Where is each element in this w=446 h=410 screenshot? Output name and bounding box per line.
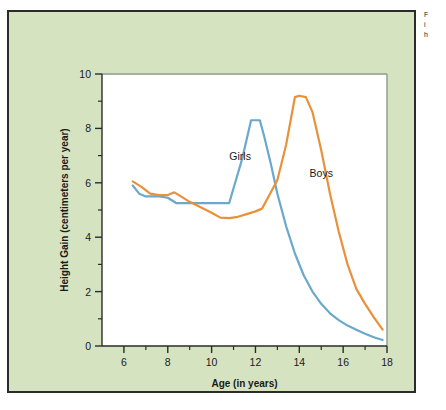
y-tick-label: 6	[85, 177, 91, 189]
series-label-boys: Boys	[310, 167, 333, 179]
figure-panel: 0246810681012141618Age (in years)Height …	[7, 10, 416, 393]
x-tick-label: 12	[250, 356, 262, 368]
y-axis-title: Height Gain (centimeters per year)	[59, 128, 70, 291]
y-tick-label: 10	[79, 68, 91, 80]
x-axis: 681012141618	[102, 346, 393, 368]
x-tick-label: 10	[206, 356, 218, 368]
y-tick-label: 8	[85, 122, 91, 134]
x-tick-label: 14	[293, 356, 305, 368]
plot-area: 0246810681012141618Age (in years)Height …	[9, 12, 418, 395]
plot-background	[102, 74, 387, 346]
growth-rate-line-chart: 0246810681012141618Age (in years)Height …	[9, 12, 418, 395]
x-tick-label: 8	[165, 356, 171, 368]
y-axis: 0246810	[79, 68, 102, 352]
y-tick-label: 2	[85, 286, 91, 298]
caption-strip: F i h	[424, 10, 446, 70]
x-axis-title: Age (in years)	[211, 378, 277, 389]
x-tick-label: 6	[121, 356, 127, 368]
caption-line-2: i	[424, 20, 446, 30]
y-tick-label: 4	[85, 231, 91, 243]
x-tick-label: 18	[381, 356, 393, 368]
x-tick-label: 16	[337, 356, 349, 368]
caption-line-1: F	[424, 10, 446, 20]
series-label-girls: Girls	[229, 150, 251, 162]
y-tick-label: 0	[85, 340, 91, 352]
caption-line-3: h	[424, 30, 446, 40]
